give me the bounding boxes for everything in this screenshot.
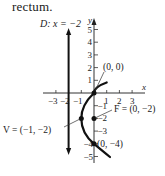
vertex-label: V = (−1, −2) xyxy=(3,125,51,136)
point-neg4-label: (0, −4) xyxy=(97,139,123,150)
y-axis-arrow-icon xyxy=(92,18,97,25)
origin-leader xyxy=(95,72,104,91)
vertex-leader xyxy=(64,119,80,127)
directrix-arrow-down-icon xyxy=(66,148,71,155)
y-tick-label: −1 xyxy=(97,101,107,111)
y-tick-label: 1 xyxy=(88,75,93,85)
y-tick-label: 4 xyxy=(88,37,93,47)
x-axis-label: x xyxy=(141,82,146,92)
y-axis-label: y xyxy=(87,15,92,25)
point-0-neg4 xyxy=(92,141,97,146)
origin-label: (0, 0) xyxy=(103,62,124,73)
y-tick-label: 3 xyxy=(88,50,93,60)
directrix-label: D: x = −2 xyxy=(39,18,81,29)
y-tick-label: 5 xyxy=(88,25,93,35)
directrix-arrow-up-icon xyxy=(66,28,71,35)
y-tick-label: 2 xyxy=(88,63,93,73)
y-tick-label: −5 xyxy=(83,152,93,162)
x-tick-label: −3 xyxy=(48,96,58,106)
x-tick-label: −1 xyxy=(73,96,83,106)
parabola-figure: y x −3 −2 −1 1 2 3 5 4 3 2 1 −1 xyxy=(0,0,165,176)
focus-label: F = (0, −2) xyxy=(114,104,155,115)
vertex-point xyxy=(79,116,84,121)
y-tick-label: −3 xyxy=(97,126,107,136)
origin-point xyxy=(92,91,97,96)
focus-point xyxy=(92,116,97,121)
